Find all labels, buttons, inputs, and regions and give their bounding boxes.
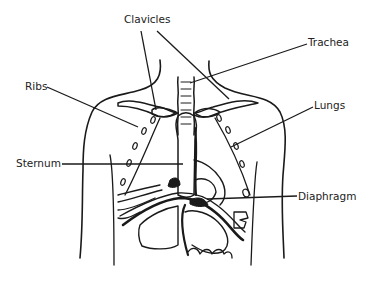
left-inner-torso-line <box>110 155 114 265</box>
trachea-shape <box>178 77 195 135</box>
label-trachea: Trachea <box>308 37 349 48</box>
diaphragm-dark-wedge <box>190 198 208 207</box>
sternum-right-edge <box>195 128 196 195</box>
left-shoulder-outline <box>80 60 160 258</box>
thorax-anatomy-diagram: Clavicles Trachea Ribs Lungs Sternum Dia… <box>0 0 373 284</box>
heart-apex-dark <box>168 178 180 187</box>
right-lower-rib-fragment <box>234 212 248 228</box>
right-inner-torso-line <box>251 162 257 265</box>
label-lungs: Lungs <box>314 100 345 111</box>
label-diaphragm: Diaphragm <box>298 191 356 202</box>
diaphragm-leader <box>207 196 297 199</box>
clavicles-leader-right <box>157 31 229 99</box>
lungs-leader <box>231 107 313 147</box>
liver-outline <box>139 206 178 249</box>
right-rib-ends <box>216 114 250 198</box>
label-ribs: Ribs <box>25 81 47 92</box>
label-clavicles: Clavicles <box>124 14 170 25</box>
right-rib-cage-line <box>215 118 250 195</box>
label-sternum: Sternum <box>16 158 61 169</box>
clavicles-leader-left <box>141 31 156 110</box>
trachea-leader <box>190 44 307 83</box>
